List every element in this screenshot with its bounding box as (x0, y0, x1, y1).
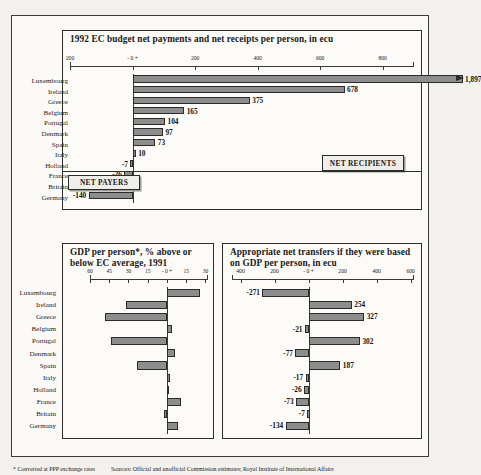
bar (167, 289, 200, 297)
axis-rule (232, 279, 414, 280)
chart-title-transfers: Appropriate net transfers if they were b… (223, 244, 421, 270)
bar (286, 422, 309, 430)
bar-value-label: 104 (168, 117, 179, 126)
axis-tick-label: 400 (372, 268, 380, 274)
category-label: Holland (0, 386, 56, 394)
category-label: Portugal (12, 119, 68, 127)
axis-line-group: 200- 0 +200400600800 (70, 55, 414, 68)
axis-tick-label: 45 (106, 268, 112, 274)
bar (133, 118, 166, 125)
bar-value-label: -140 (46, 191, 86, 200)
axis-tick-label: 200 (66, 55, 74, 61)
category-label: Spain (0, 362, 56, 370)
bar (304, 386, 308, 394)
bar-value-label: -73 (254, 397, 294, 406)
axis-tick (258, 66, 259, 70)
axis-tick-label: 600 (316, 55, 324, 61)
bar (306, 374, 309, 382)
bar (133, 139, 156, 146)
axis-rule (70, 66, 414, 67)
bar (309, 337, 360, 345)
bar (307, 410, 310, 418)
axis-tick-label: 15 (145, 268, 151, 274)
bar-value-label: 97 (165, 128, 172, 137)
category-label: Luxembourg (0, 289, 56, 297)
axis-rule (90, 279, 208, 280)
bar-value-label: 10 (138, 149, 145, 158)
axis-tick (195, 66, 196, 70)
bar (133, 86, 345, 93)
category-label: Denmark (12, 130, 68, 138)
bar-value-label: 165 (187, 107, 198, 116)
axis-end-left (90, 275, 91, 280)
category-label: Portugal (0, 337, 56, 345)
bar-value-label: 187 (343, 361, 354, 370)
axis-tick-label: 200 (338, 268, 346, 274)
axis-tick-label: - 0 + (303, 268, 314, 274)
bar-value-label: -21 (262, 325, 302, 334)
category-label: Belgium (0, 325, 56, 333)
bar-value-label: -271 (220, 288, 260, 297)
axis-tick (133, 66, 134, 70)
bar (111, 337, 167, 345)
bar (167, 325, 172, 333)
axis-tick-label: 600 (406, 268, 414, 274)
bar (295, 349, 308, 357)
bar-value-label: -26 (262, 385, 302, 394)
axis-tick (320, 66, 321, 70)
axis-end-left (70, 62, 71, 67)
bar (133, 107, 185, 114)
bar (296, 398, 308, 406)
axis-tick-label: 200 (270, 268, 278, 274)
axis-tick-label: 800 (379, 55, 387, 61)
category-label: Germany (0, 422, 56, 430)
category-label: France (0, 398, 56, 406)
axis-tick-label: 30 (203, 268, 209, 274)
axis-end-right (413, 62, 414, 67)
bar-value-label: 73 (158, 138, 165, 147)
payers-recipients-divider (63, 171, 421, 172)
axis-tick (128, 279, 129, 283)
axis-tick (167, 279, 168, 283)
axis-tick (109, 279, 110, 283)
category-label: Ireland (12, 88, 68, 96)
bar (167, 422, 179, 430)
axis-tick (275, 279, 276, 283)
category-label: Britain (0, 410, 56, 418)
bar (133, 75, 463, 82)
axis-tick (241, 279, 242, 283)
axis-tick-label: - 0 + (127, 55, 138, 61)
axis-end-right (413, 275, 414, 280)
bar (164, 410, 167, 418)
bar-value-label: -134 (243, 421, 283, 430)
axis-tick (411, 279, 412, 283)
category-label: Greece (12, 98, 68, 106)
bar (89, 192, 133, 199)
bar-value-label: 254 (354, 300, 365, 309)
axis-end-right (207, 275, 208, 280)
axis-tick-label: 15 (183, 268, 189, 274)
bar-value-label: 302 (362, 337, 373, 346)
axis-tick-label: 400 (253, 55, 261, 61)
footnote-note: * Converted at PPP exchange rates (13, 466, 95, 472)
category-label: Ireland (0, 301, 56, 309)
axis-tick (186, 279, 187, 283)
footnote: * Converted at PPP exchange rates Source… (13, 466, 437, 472)
category-label: Italy (12, 151, 68, 159)
bar (309, 313, 365, 321)
axis-tick-label: 400 (236, 268, 244, 274)
bar-value-label: 327 (367, 312, 378, 321)
chart-title-budget: 1992 EC budget net payments and net rece… (63, 31, 421, 46)
axis-tick (343, 279, 344, 283)
axis-line-group: 60453015- 0 +1530 (90, 268, 208, 281)
bar (133, 128, 163, 135)
category-label: Luxembourg (12, 77, 68, 85)
bar-value-label: -7 (265, 409, 305, 418)
category-label: Holland (12, 162, 68, 170)
callout-net-payers: NET PAYERS (68, 175, 140, 190)
axis-tick (383, 66, 384, 70)
bar-value-label: 1,897 (465, 75, 481, 84)
bar (167, 374, 170, 382)
bar-value-label: -77 (253, 349, 293, 358)
bar (126, 301, 167, 309)
